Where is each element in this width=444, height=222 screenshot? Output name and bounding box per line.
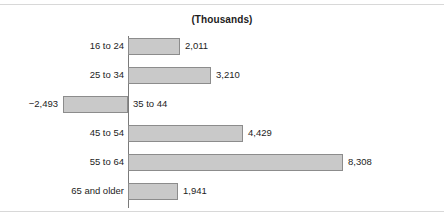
chart-figure: (Thousands) 16 to 24 2,011 25 to 34 3,21… bbox=[0, 0, 444, 222]
value-label: 2,011 bbox=[185, 39, 208, 53]
bar bbox=[128, 67, 211, 84]
value-label: 4,429 bbox=[248, 126, 272, 140]
bar bbox=[63, 96, 128, 113]
chart-title: (Thousands) bbox=[0, 14, 444, 25]
category-label: 25 to 34 bbox=[90, 68, 124, 82]
bar bbox=[128, 125, 243, 142]
category-label: 16 to 24 bbox=[90, 39, 124, 53]
bar bbox=[128, 38, 180, 55]
bar-row: 16 to 24 2,011 bbox=[0, 33, 444, 62]
category-label: 55 to 64 bbox=[90, 155, 124, 169]
value-label: 1,941 bbox=[183, 184, 207, 198]
bar-row: 25 to 34 3,210 bbox=[0, 62, 444, 91]
bar-row: 55 to 64 8,308 bbox=[0, 149, 444, 178]
value-label: 3,210 bbox=[216, 68, 240, 82]
category-label: 45 to 54 bbox=[90, 126, 124, 140]
plot-area: 16 to 24 2,011 25 to 34 3,210 35 to 44 −… bbox=[0, 33, 444, 211]
bar bbox=[128, 154, 343, 171]
figure-top-border bbox=[0, 4, 444, 5]
value-label: 8,308 bbox=[348, 155, 372, 169]
figure-bottom-border bbox=[0, 211, 444, 212]
bar-row: 45 to 54 4,429 bbox=[0, 120, 444, 149]
value-label: −2,493 bbox=[29, 97, 58, 111]
category-label: 35 to 44 bbox=[133, 97, 167, 111]
bar bbox=[128, 183, 178, 200]
bar-row: 35 to 44 −2,493 bbox=[0, 91, 444, 120]
category-label: 65 and older bbox=[71, 184, 124, 198]
bar-row: 65 and older 1,941 bbox=[0, 178, 444, 207]
